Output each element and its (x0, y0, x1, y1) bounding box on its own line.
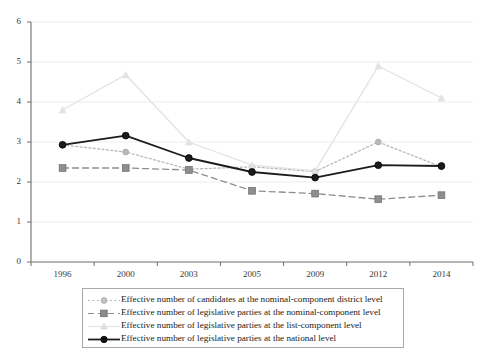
x-axis-tick-label: 1996 (43, 269, 83, 279)
chart-legend: Effective number of candidates at the no… (82, 288, 404, 348)
data-point-marker (438, 95, 445, 101)
x-axis-tick-label: 2012 (358, 269, 398, 279)
legend-marker-dashed-square-icon (87, 306, 121, 319)
data-point-marker (375, 162, 382, 169)
data-point-marker (375, 196, 382, 203)
y-axis-tick-label: 4 (5, 96, 21, 106)
y-axis-tick-label: 5 (5, 56, 21, 66)
series-line (59, 132, 445, 181)
data-point-marker (249, 187, 256, 194)
data-point-marker (312, 174, 319, 181)
y-axis-tick-label: 2 (5, 176, 21, 186)
legend-item-legislative-national[interactable]: Effective number of legislative parties … (87, 332, 403, 345)
x-axis-tick-label: 2014 (421, 269, 461, 279)
legend-item-candidates-nominal-district[interactable]: Effective number of candidates at the no… (87, 293, 403, 306)
data-point-marker (249, 169, 256, 176)
legend-item-label: Effective number of legislative parties … (121, 306, 381, 319)
x-axis-tick-label: 2003 (169, 269, 209, 279)
series-line (59, 63, 445, 174)
data-point-marker (185, 155, 192, 162)
y-axis-tick-label: 0 (5, 256, 21, 266)
data-point-marker (438, 163, 445, 170)
x-axis-tick-label: 2005 (232, 269, 272, 279)
data-point-marker (312, 190, 319, 197)
y-axis-tick-label: 3 (5, 136, 21, 146)
y-axis-tick-label: 1 (5, 216, 21, 226)
legend-item-label: Effective number of candidates at the no… (121, 293, 383, 306)
data-point-marker (59, 165, 66, 172)
legend-item-label: Effective number of legislative parties … (121, 319, 362, 332)
data-point-marker (122, 71, 129, 77)
data-point-marker (59, 141, 66, 148)
data-point-marker (185, 167, 192, 174)
legend-item-legislative-nominal[interactable]: Effective number of legislative parties … (87, 306, 403, 319)
data-point-marker (122, 132, 129, 139)
data-point-marker (438, 192, 445, 199)
y-axis-tick-label: 6 (5, 16, 21, 26)
legend-item-legislative-list[interactable]: Effective number of legislative parties … (87, 319, 403, 332)
data-point-marker (59, 107, 66, 113)
legend-marker-light-line-icon (87, 319, 121, 332)
legend-marker-dotted-circle-icon (87, 293, 121, 306)
data-point-marker (123, 149, 129, 155)
data-point-marker (375, 139, 381, 145)
data-point-marker (122, 165, 129, 172)
data-point-marker (375, 63, 382, 69)
x-axis-tick-label: 2000 (106, 269, 146, 279)
legend-marker-solid-circle-icon (87, 332, 121, 345)
legend-item-label: Effective number of legislative parties … (121, 332, 336, 345)
x-axis-tick-label: 2009 (295, 269, 335, 279)
